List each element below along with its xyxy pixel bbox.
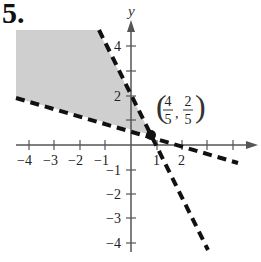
x-axis-arrow-icon [246,141,258,149]
svg-text:,: , [175,106,179,121]
x-tick-label: −4 [17,153,32,168]
y-tick-label: 4 [114,39,121,54]
x-tick-label: −3 [43,153,58,168]
y-tick-label: −3 [106,211,121,226]
y-axis-label: y [126,3,135,19]
y-tick-label: −2 [106,187,121,202]
svg-text:5: 5 [165,112,172,127]
intersection-label: ( 4 5 , 2 5 ) [156,88,206,127]
x-tick-label: −2 [68,153,83,168]
y-tick-label: 2 [114,89,121,104]
svg-text:): ) [195,88,206,124]
graph: −4 −3 −2 −1 1 2 4 2 −1 −2 −3 −4 y ( 4 5 … [0,0,261,262]
svg-text:4: 4 [165,94,172,109]
y-tick-label: −4 [106,236,121,251]
y-axis-arrow-icon [127,20,135,32]
x-tick-label: 2 [178,153,185,168]
intersection-point [146,130,156,140]
svg-text:5: 5 [185,112,192,127]
svg-text:2: 2 [185,94,192,109]
y-tick-label: −1 [106,163,121,178]
